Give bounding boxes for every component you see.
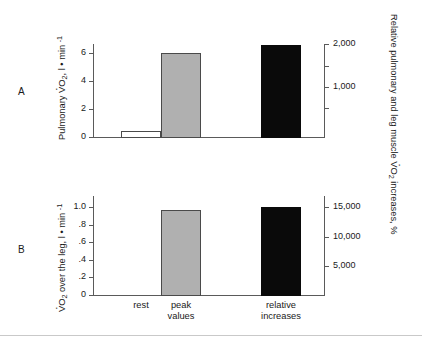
panel-a-left-tick-0 (89, 137, 93, 138)
right-title-lead: Relative pulmonary and leg muscle (389, 14, 399, 161)
title-a-v-dot: V (57, 87, 67, 93)
title-a-sub: 2 (60, 76, 69, 80)
panel-a-left-axis-line (93, 44, 94, 138)
title-a-dot: • (57, 62, 67, 65)
panel-a-right-ticklabel-2000: 2,000 (333, 38, 356, 48)
panel-b-left-ticklabel-0-8: .8 (78, 219, 86, 229)
title-b-v-dot: V (57, 306, 67, 312)
panel-b-right-tick-15000 (325, 207, 329, 208)
x-category-label-peak-values: peak values (141, 300, 221, 322)
panel-b-left-axis-line (93, 196, 94, 296)
panel-a-bar-relative-increases (261, 45, 301, 138)
x-category-peak-line1: peak (141, 300, 221, 311)
panel-b-left-tick-0 (89, 295, 93, 296)
panel-a-left-ticklabel-6: 6 (81, 47, 86, 57)
panel-a-left-tick-6 (89, 53, 93, 54)
panel-a-plot-area: 6 4 2 0 2,000 1,000 (93, 44, 325, 138)
panel-a-bar-peak-values (161, 53, 201, 138)
title-a-o: O (57, 80, 67, 87)
panel-b-right-tick-10000 (325, 237, 329, 238)
panel-b-bar-rest (121, 295, 161, 296)
panel-letter-b: B (18, 244, 25, 255)
panel-b-left-ticklabel-1-0: 1.0 (73, 201, 86, 211)
title-b-mid: over the leg, l (57, 234, 67, 295)
panel-a-right-tick-2000 (325, 44, 329, 45)
panel-b-right-ticklabel-5000: 5,000 (333, 260, 356, 270)
title-b-sup: -1 (55, 204, 64, 210)
panel-b-left-tick-0-6 (89, 242, 93, 243)
panel-b-right-tick-5000 (325, 266, 329, 267)
title-a-mid: , l (57, 66, 67, 76)
panel-b-left-tick-0-4 (89, 260, 93, 261)
panel-a-left-ticklabel-2: 2 (81, 103, 86, 113)
x-category-label-relative-increases: relative increases (241, 300, 321, 322)
panel-b-left-tick-0-2 (89, 277, 93, 278)
figure-canvas: A B Pulmonary VO2, l • min -1 VO2 over t… (0, 0, 422, 348)
panel-b-left-ticklabel-0-6: .6 (78, 236, 86, 246)
panel-b-left-tick-0-8 (89, 225, 93, 226)
panel-a-left-tick-4 (89, 81, 93, 82)
title-a-sup: -1 (55, 36, 64, 42)
panel-a-left-tick-2 (89, 109, 93, 110)
panel-a-bar-rest (121, 131, 161, 138)
right-title-o: O (389, 167, 399, 174)
panel-a-right-tick-1000 (325, 87, 329, 88)
panel-a-y-axis-title: Pulmonary VO2, l • min -1 (56, 36, 68, 140)
right-title-tail: increases, % (389, 179, 399, 235)
panel-b-left-tick-1-0 (89, 207, 93, 208)
title-a-lead: Pulmonary (57, 93, 67, 140)
panel-b-left-ticklabel-0: 0 (81, 289, 86, 299)
panel-b-right-ticklabel-15000: 15,000 (333, 201, 361, 211)
title-b-o: O (57, 299, 67, 306)
panel-b-right-ticklabel-10000: 10,000 (333, 231, 361, 241)
x-category-peak-line2: values (141, 311, 221, 322)
panel-b-right-axis-line (324, 196, 325, 296)
bottom-divider-rule (0, 335, 422, 336)
title-b-dot: • (57, 230, 67, 233)
panel-b-plot-area: 1.0 .8 .6 .4 .2 0 15,000 10,000 5,000 (93, 196, 325, 296)
right-title-v-dot: V (389, 161, 399, 167)
x-category-relative-line1: relative (241, 300, 321, 311)
x-category-relative-line2: increases (241, 311, 321, 322)
panel-a-right-tick-500 (325, 108, 329, 109)
panel-b-bar-relative-increases (261, 207, 301, 296)
panel-letter-a: A (18, 86, 25, 97)
panel-a-right-axis-line (324, 44, 325, 138)
title-b-unit: min (57, 210, 67, 230)
panel-a-left-ticklabel-0: 0 (81, 131, 86, 141)
panel-b-bar-peak-values (161, 210, 201, 296)
panel-a-right-ticklabel-1000: 1,000 (333, 81, 356, 91)
panel-a-left-ticklabel-4: 4 (81, 75, 86, 85)
panel-a-right-tick-1500 (325, 66, 329, 67)
right-axis-title: Relative pulmonary and leg muscle VO2 in… (388, 14, 398, 235)
panel-b-y-axis-title: VO2 over the leg, l • min -1 (56, 204, 68, 312)
title-b-sub: 2 (60, 295, 69, 299)
title-a-unit: min (57, 42, 67, 62)
panel-b-left-ticklabel-0-4: .4 (78, 254, 86, 264)
panel-b-left-ticklabel-0-2: .2 (78, 271, 86, 281)
